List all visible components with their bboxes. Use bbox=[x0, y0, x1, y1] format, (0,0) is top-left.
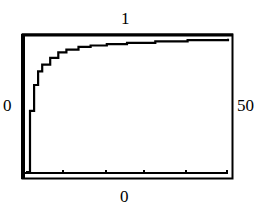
bottom-axis-label: 0 bbox=[120, 188, 129, 205]
plot-frame bbox=[23, 35, 233, 179]
chart-plot bbox=[0, 0, 270, 215]
data-curve bbox=[26, 39, 228, 172]
top-axis-label: 1 bbox=[121, 10, 130, 27]
left-axis-label: 0 bbox=[3, 97, 12, 114]
right-axis-label: 50 bbox=[237, 97, 254, 114]
